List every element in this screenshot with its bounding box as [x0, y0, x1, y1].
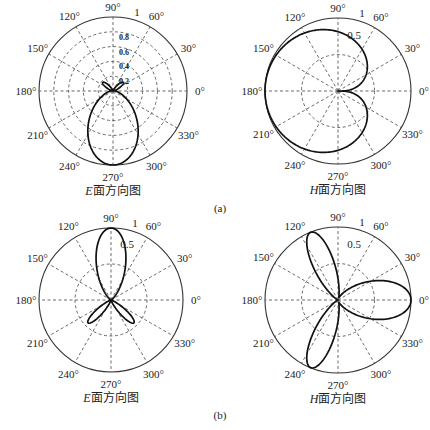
angle-tick-label: 180°: [16, 85, 37, 97]
angle-tick-label: 30°: [177, 252, 192, 264]
radial-gridline: [302, 91, 339, 154]
angle-tick-label: 90°: [103, 212, 118, 224]
radial-tick-label: 1: [359, 7, 365, 19]
angle-tick-label: 60°: [149, 10, 164, 22]
angle-tick-label: 240°: [58, 368, 79, 380]
radial-gridline: [338, 300, 375, 363]
angle-tick-label: 330°: [174, 337, 195, 349]
radial-tick-label: 0.4: [119, 62, 129, 71]
radial-gridline: [111, 264, 173, 300]
angle-tick-label: 300°: [371, 159, 392, 171]
radial-gridline: [49, 264, 111, 300]
angle-tick-label: 90°: [330, 211, 345, 223]
angle-tick-label: 120°: [58, 220, 79, 232]
angle-tick-label: 330°: [402, 337, 423, 349]
caption-text: 面方向图: [318, 392, 366, 406]
radial-tick-label: 1: [134, 6, 140, 18]
angle-tick-label: 240°: [285, 159, 306, 171]
radial-gridline: [338, 91, 375, 154]
angle-tick-label: 210°: [253, 128, 274, 140]
angle-tick-label: 30°: [405, 42, 420, 54]
angle-tick-label: 330°: [178, 129, 199, 141]
angle-tick-label: 0°: [419, 85, 429, 97]
angle-tick-label: 300°: [146, 160, 167, 172]
chart-caption: E面方向图: [85, 181, 140, 199]
caption-plane-letter: H: [310, 392, 319, 406]
angle-tick-label: 210°: [27, 337, 48, 349]
subfigure-label-a: (a): [214, 202, 226, 214]
angle-tick-label: 30°: [181, 42, 196, 54]
angle-tick-label: 90°: [330, 2, 345, 14]
radial-gridline: [113, 91, 150, 155]
chart-caption: H面方向图: [310, 180, 367, 198]
radial-gridline: [49, 91, 113, 128]
angle-tick-label: 150°: [27, 252, 48, 264]
angle-tick-label: 60°: [146, 220, 161, 232]
caption-text: 面方向图: [91, 391, 139, 405]
angle-tick-label: 60°: [373, 11, 388, 23]
angle-tick-label: 180°: [242, 85, 263, 97]
radial-tick-label: 0.5: [347, 29, 361, 41]
polar-plots-canvas: [0, 0, 430, 430]
radial-tick-label: 1: [132, 217, 138, 229]
angle-tick-label: 120°: [285, 220, 306, 232]
angle-tick-label: 30°: [405, 251, 420, 263]
angle-tick-label: 180°: [242, 294, 263, 306]
angle-tick-label: 0°: [419, 294, 429, 306]
angle-tick-label: 210°: [27, 129, 48, 141]
angle-tick-label: 0°: [191, 294, 201, 306]
caption-plane-letter: H: [310, 183, 319, 197]
caption-text: 面方向图: [93, 184, 141, 198]
radial-tick-label: 0.8: [119, 32, 129, 41]
radial-tick-label: 0.6: [119, 47, 129, 56]
angle-tick-label: 150°: [253, 251, 274, 263]
angle-tick-label: 60°: [373, 220, 388, 232]
angle-tick-label: 210°: [253, 337, 274, 349]
radial-tick-label: 0.2: [119, 77, 129, 86]
angle-tick-label: 240°: [59, 160, 80, 172]
angle-tick-label: 120°: [285, 11, 306, 23]
angle-tick-label: 150°: [27, 42, 48, 54]
angle-tick-label: 300°: [143, 368, 164, 380]
radial-gridline: [76, 27, 113, 91]
subfigure-label-b: (b): [214, 409, 227, 421]
angle-tick-label: 90°: [105, 1, 120, 13]
radial-tick-label: 0.5: [120, 238, 134, 250]
caption-text: 面方向图: [318, 183, 366, 197]
chart-caption: E面方向图: [83, 388, 138, 406]
radial-gridline: [75, 238, 111, 300]
angle-tick-label: 180°: [16, 294, 37, 306]
angle-tick-label: 300°: [371, 368, 392, 380]
chart-caption: H面方向图: [310, 389, 367, 407]
radial-tick-label: 1: [359, 216, 365, 228]
radial-tick-label: 0.5: [347, 238, 361, 250]
angle-tick-label: 330°: [402, 128, 423, 140]
radial-gridline: [302, 28, 339, 91]
radial-gridline: [76, 91, 113, 155]
angle-tick-label: 150°: [253, 42, 274, 54]
angle-tick-label: 240°: [285, 368, 306, 380]
angle-tick-label: 120°: [59, 10, 80, 22]
radial-gridline: [113, 91, 177, 128]
angle-tick-label: 0°: [195, 85, 205, 97]
